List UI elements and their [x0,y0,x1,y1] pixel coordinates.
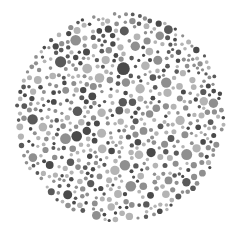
dot [40,117,44,121]
dot [80,194,85,199]
dot [106,184,109,187]
dot [94,161,98,165]
dot [211,133,216,138]
dot [198,61,203,66]
dot [48,175,52,179]
dot [89,105,93,109]
dot [124,12,128,16]
dot [25,161,29,165]
dot [208,119,214,125]
dot [109,131,112,134]
dot [202,107,205,110]
dot [164,25,173,34]
dot [181,131,188,138]
dot [137,96,143,102]
dot [36,162,39,165]
dot [70,153,73,156]
dot [97,165,100,168]
dot [77,202,83,208]
dot [55,56,66,67]
dot [143,201,149,207]
dot [66,31,71,36]
dot [131,42,140,51]
dot [156,176,161,181]
dot [49,73,56,80]
dot [218,92,222,96]
dot [49,66,53,70]
dot [71,76,75,80]
dot [94,121,100,127]
dot [77,158,81,162]
dot [73,55,78,60]
dot [181,190,185,194]
dot [153,173,156,176]
dot [108,203,115,210]
dot [18,97,23,102]
dot [68,25,73,30]
dot [16,123,23,130]
dot [196,93,199,96]
dot [207,66,211,70]
dot [137,21,142,26]
dot [29,153,38,162]
dot [171,48,174,51]
dot [95,58,99,62]
dot [29,64,34,69]
dot [183,47,187,51]
dot [34,61,38,65]
dot [140,168,143,171]
dot [174,43,177,46]
dot [54,84,58,88]
dot [118,140,122,144]
dot [108,94,113,99]
dot [205,110,210,115]
dot [54,51,58,55]
dot [144,73,147,76]
dot [97,174,103,180]
dot [58,178,61,181]
dot [127,39,131,43]
dot [105,156,109,160]
dot [129,99,136,106]
dot [117,44,123,50]
dot [200,89,206,95]
dot [74,124,79,129]
dot [131,13,135,17]
dot [133,25,137,29]
dot [39,109,43,113]
dot [203,124,206,127]
dot [76,21,80,25]
dot [191,58,194,61]
dot [197,71,200,74]
dot [185,64,190,69]
dot [148,70,151,73]
dot [131,80,135,84]
dot [57,73,61,77]
dot [171,86,175,90]
dot [157,209,163,215]
dot [128,150,133,155]
dot [168,171,172,175]
dot [100,208,104,212]
dot [34,55,38,59]
dot [168,43,172,47]
dot [149,101,152,104]
dot [142,54,145,57]
dot [171,129,176,134]
dot [191,162,197,168]
dot [142,143,146,147]
dot [212,109,217,114]
dot [62,179,65,182]
dot [26,70,29,73]
dot [186,40,191,45]
dot [179,167,182,170]
dot [191,84,197,90]
dot [203,133,206,136]
dot [207,126,211,130]
dot [112,59,116,63]
dot [165,177,173,185]
dot [123,199,128,204]
dot [44,137,49,142]
dot [149,128,153,132]
dot [108,108,112,112]
